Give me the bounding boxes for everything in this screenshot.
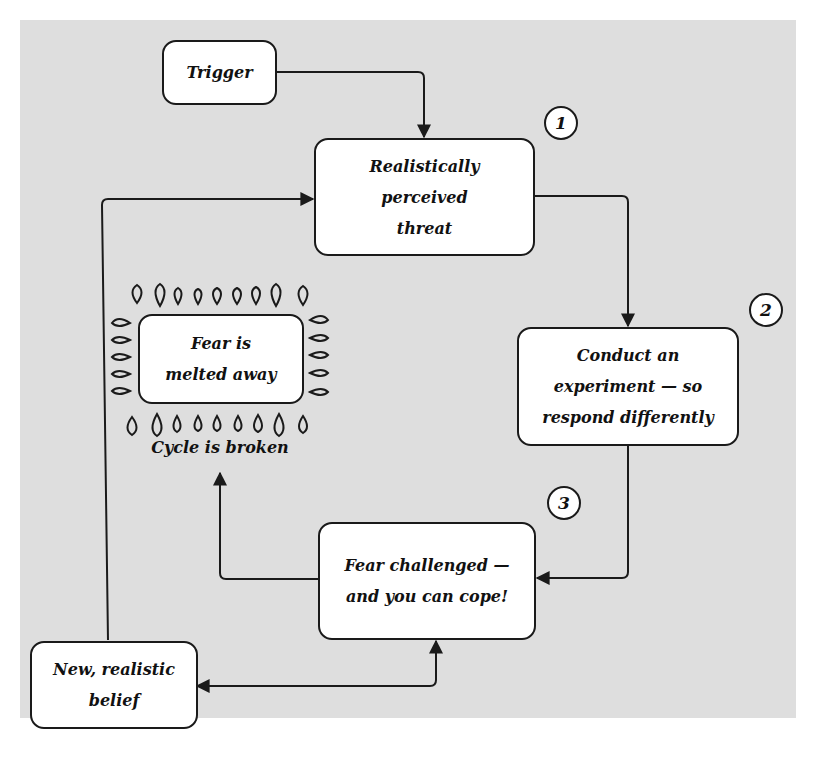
node-threat-line: perceived [381, 182, 467, 213]
step-badge-3: 3 [547, 486, 581, 520]
node-threat-line: threat [397, 213, 452, 244]
node-melted-line: melted away [165, 359, 276, 390]
arrow-threat-to-experiment [535, 196, 628, 326]
node-new-belief: New, realistic belief [30, 641, 198, 729]
node-conduct-experiment: Conduct an experiment — so respond diffe… [517, 327, 739, 446]
node-perceived-threat: Realistically perceived threat [314, 138, 535, 256]
cycle-broken-caption: Cycle is broken [130, 438, 310, 457]
node-trigger-line: Trigger [186, 57, 252, 88]
arrow-challenged-belief [197, 641, 436, 686]
node-trigger: Trigger [162, 40, 277, 105]
node-challenged-line: and you can cope! [346, 581, 508, 612]
node-experiment-line: experiment — so [554, 371, 703, 402]
node-belief-line: New, realistic [53, 654, 175, 685]
node-experiment-line: Conduct an [577, 340, 680, 371]
arrow-trigger-to-threat [277, 72, 424, 137]
step-badge-2: 2 [749, 293, 783, 327]
node-belief-line: belief [89, 685, 140, 716]
arrow-challenged-to-cycle-broken [220, 473, 318, 579]
step-badge-1: 1 [544, 106, 578, 140]
node-melted-line: Fear is [191, 328, 251, 359]
node-fear-challenged: Fear challenged — and you can cope! [318, 522, 536, 640]
node-experiment-line: respond differently [542, 402, 714, 433]
node-fear-melted: Fear is melted away [138, 314, 304, 404]
node-threat-line: Realistically [369, 151, 479, 182]
node-challenged-line: Fear challenged — [345, 550, 510, 581]
